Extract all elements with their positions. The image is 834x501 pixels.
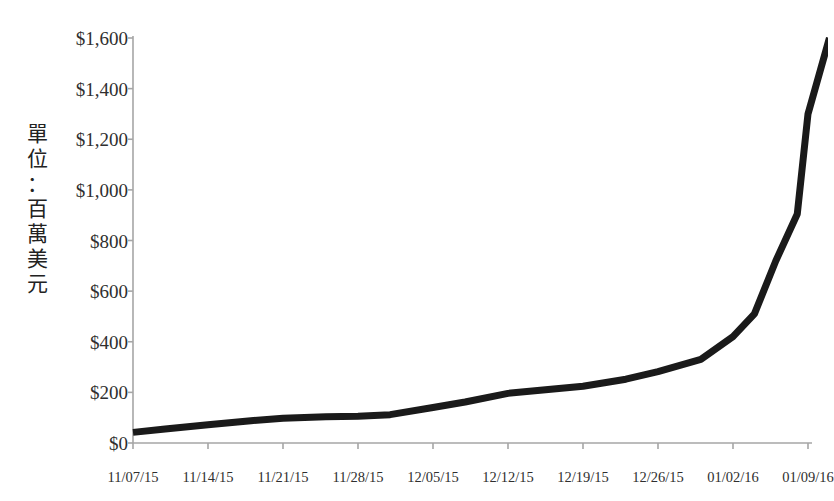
x-axis-tick-label: 11/07/15: [107, 470, 158, 485]
x-axis-tick-label: 11/28/15: [332, 470, 383, 485]
data-series-line: [133, 38, 828, 432]
x-axis-tick-label: 12/12/15: [482, 470, 534, 485]
x-axis-tick-label: 01/09/16: [782, 470, 834, 485]
x-axis-tick-label: 12/05/15: [407, 470, 459, 485]
x-axis-tick-label: 11/14/15: [182, 470, 233, 485]
x-axis-tick-label: 11/21/15: [257, 470, 308, 485]
x-axis-tick-label: 12/19/15: [557, 470, 609, 485]
x-axis-tick-label: 12/26/15: [632, 470, 684, 485]
x-axis-tick-label: 01/02/16: [707, 470, 759, 485]
